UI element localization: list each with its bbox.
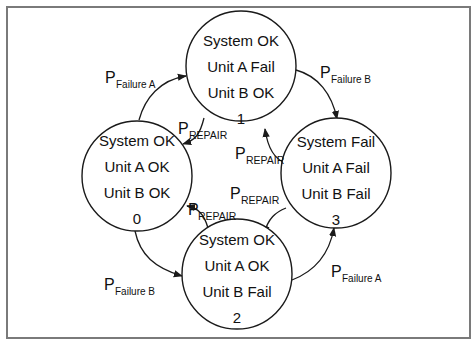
- label-0-to-2: P Failure B: [104, 276, 155, 297]
- svg-text:REPAIR: REPAIR: [198, 210, 237, 222]
- state-0: System OK Unit A OK Unit B OK 0: [82, 121, 192, 231]
- state-1-line-3: Unit B OK: [208, 84, 275, 101]
- svg-text:P: P: [331, 263, 342, 280]
- svg-text:REPAIR: REPAIR: [189, 129, 228, 141]
- state-1-line-2: Unit A Fail: [207, 58, 275, 75]
- label-2-to-0-repair: P REPAIR: [188, 201, 237, 222]
- svg-text:REPAIR: REPAIR: [246, 154, 285, 166]
- state-2-line-3: Unit B Fail: [202, 283, 271, 300]
- svg-text:P: P: [104, 276, 115, 293]
- svg-text:P: P: [105, 69, 116, 86]
- state-1: System OK Unit A Fail Unit B OK 1: [186, 11, 296, 127]
- svg-text:P: P: [178, 120, 189, 137]
- state-2: System OK Unit A OK Unit B Fail 2: [182, 219, 292, 329]
- transition-0-to-2: [135, 231, 182, 276]
- label-3-to-1-repair: P REPAIR: [235, 145, 285, 166]
- svg-text:Failure A: Failure A: [342, 273, 382, 284]
- state-diagram: System OK Unit A Fail Unit B OK 1 System…: [0, 0, 475, 346]
- transition-2-to-3: [292, 228, 334, 280]
- svg-text:P: P: [320, 64, 331, 81]
- state-3-number: 3: [332, 211, 340, 228]
- label-1-to-3: P Failure B: [320, 64, 371, 85]
- state-2-line-2: Unit A OK: [204, 257, 269, 274]
- label-3-to-2-repair: P REPAIR: [230, 185, 280, 206]
- svg-text:P: P: [230, 185, 241, 202]
- state-3: System Fail Unit A Fail Unit B Fail 3: [281, 118, 391, 228]
- svg-text:P: P: [235, 145, 246, 162]
- state-2-number: 2: [233, 309, 241, 326]
- state-1-line-1: System OK: [203, 32, 279, 49]
- svg-text:REPAIR: REPAIR: [241, 194, 280, 206]
- state-0-line-3: Unit B OK: [104, 184, 171, 201]
- state-3-line-1: System Fail: [297, 133, 375, 150]
- label-0-to-1: P Failure A: [105, 69, 156, 90]
- state-0-line-2: Unit A OK: [104, 158, 169, 175]
- state-0-line-1: System OK: [99, 132, 175, 149]
- svg-text:Failure B: Failure B: [331, 74, 371, 85]
- state-3-line-2: Unit A Fail: [302, 159, 370, 176]
- label-2-to-3: P Failure A: [331, 263, 382, 284]
- state-3-line-3: Unit B Fail: [301, 185, 370, 202]
- state-2-line-1: System OK: [199, 231, 275, 248]
- svg-text:Failure B: Failure B: [115, 286, 155, 297]
- svg-text:Failure A: Failure A: [116, 79, 156, 90]
- state-1-number: 1: [237, 110, 245, 127]
- state-0-number: 0: [133, 210, 141, 227]
